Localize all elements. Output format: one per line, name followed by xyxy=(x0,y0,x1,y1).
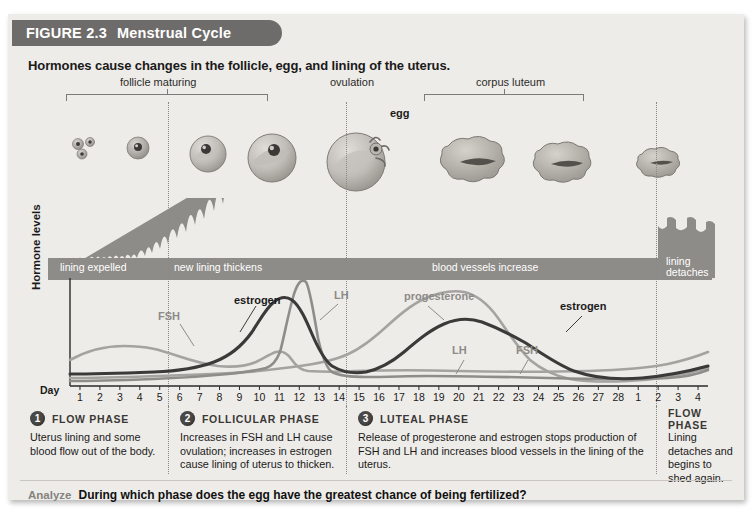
curve-label-estrogen-left: estrogen xyxy=(234,294,280,306)
phase-name-follicular: FOLLICULAR PHASE xyxy=(202,413,319,425)
curve-label-fsh-right: FSH xyxy=(516,344,538,356)
phase-flow[interactable]: 1 FLOW PHASE Uterus lining and some bloo… xyxy=(30,410,158,458)
phase-desc-follicular: Increases in FSH and LH cause ovulation;… xyxy=(180,431,336,472)
analyze-question: During which phase does the egg have the… xyxy=(78,488,526,502)
lining-label-expelled: lining expelled xyxy=(60,262,127,273)
follicle-illustrations xyxy=(8,100,744,210)
figure-title: Menstrual Cycle xyxy=(117,25,231,41)
curve-label-fsh-left: FSH xyxy=(158,310,180,322)
phase-separator-2 xyxy=(346,406,347,474)
group-label-follicle-maturing: follicle maturing xyxy=(120,76,196,88)
phase-desc-flow-second: Lining detaches and begins to shed again… xyxy=(668,431,736,485)
phase-name-flow: FLOW PHASE xyxy=(52,413,129,425)
figure-banner: FIGURE 2.3 Menstrual Cycle xyxy=(12,20,282,46)
phase-separator-1 xyxy=(168,406,169,474)
phase-badge-3: 3 xyxy=(358,411,373,426)
lining-label-new-thickens: new lining thickens xyxy=(174,262,262,273)
group-label-corpus-luteum: corpus luteum xyxy=(476,76,545,88)
phase-badge-2: 2 xyxy=(180,411,195,426)
figure-subtitle: Hormones cause changes in the follicle, … xyxy=(28,58,450,73)
corpus-luteum-2 xyxy=(533,142,591,182)
analyze-prompt: Analyze During which phase does the egg … xyxy=(28,488,527,502)
lining-label-detaches: lining detaches xyxy=(666,256,710,278)
curve-label-estrogen-right: estrogen xyxy=(560,300,606,312)
analyze-label: Analyze xyxy=(28,489,71,501)
phase-follicular[interactable]: 2 FOLLICULAR PHASE Increases in FSH and … xyxy=(180,410,336,472)
phase-badge-1: 1 xyxy=(30,411,45,426)
curve-label-lh-left: LH xyxy=(334,289,349,301)
phase-name-luteal: LUTEAL PHASE xyxy=(380,413,469,425)
corpus-luteum-3-degenerating xyxy=(637,147,680,177)
footer-divider xyxy=(20,480,732,481)
phase-desc-luteal: Release of progesterone and estrogen sto… xyxy=(358,431,646,472)
curve-label-progesterone: progesterone xyxy=(404,290,474,302)
illustration-stage: follicle maturing ovulation corpus luteu… xyxy=(8,76,744,282)
phase-separator-3 xyxy=(656,406,657,474)
phase-name-flow-second: FLOW PHASE xyxy=(668,407,736,431)
lining-label-blood-vessels: blood vessels increase xyxy=(432,262,538,273)
curve-label-lh-right: LH xyxy=(452,344,467,356)
figure-card: FIGURE 2.3 Menstrual Cycle Hormones caus… xyxy=(8,14,744,500)
egg-label: egg xyxy=(390,107,410,119)
figure-number: FIGURE 2.3 xyxy=(26,25,107,41)
group-label-ovulation: ovulation xyxy=(330,76,374,88)
corpus-luteum-1 xyxy=(440,136,504,181)
phase-flow-second[interactable]: FLOW PHASE Lining detaches and begins to… xyxy=(668,410,736,485)
phase-desc-flow: Uterus lining and some blood flow out of… xyxy=(30,431,158,458)
phase-luteal[interactable]: 3 LUTEAL PHASE Release of progesterone a… xyxy=(358,410,646,472)
